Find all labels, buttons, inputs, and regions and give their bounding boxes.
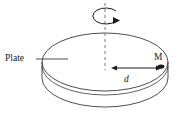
physics-diagram-figure: Plate M d: [0, 0, 185, 123]
rotation-arc: [93, 8, 116, 24]
mass-label: M: [154, 53, 162, 63]
rotation-arrowhead-icon: [113, 17, 120, 24]
mass-marker-dot-icon: [158, 64, 165, 68]
plate-label: Plate: [5, 54, 24, 64]
distance-arrowhead-left-icon: [111, 65, 117, 70]
distance-label: d: [124, 75, 129, 85]
